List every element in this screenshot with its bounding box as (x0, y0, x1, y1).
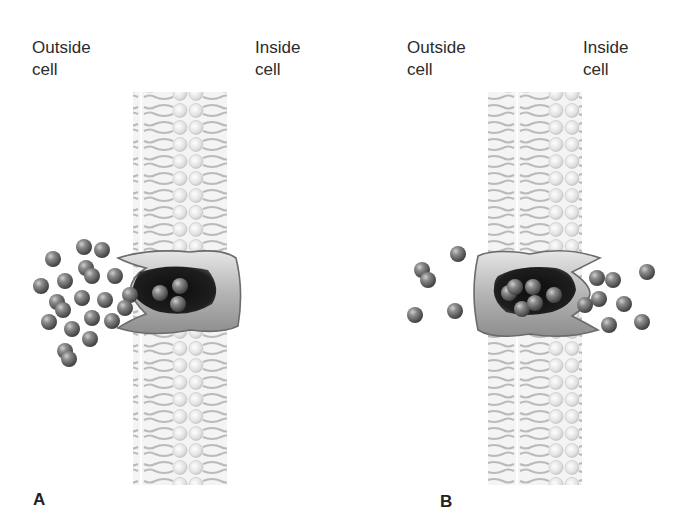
panel-b-outside-label-line1: Outside (407, 37, 466, 59)
panel-a-outside-label: Outside cell (32, 37, 91, 81)
diagram-canvas (0, 0, 680, 532)
panel-a-inside-label: Inside cell (255, 37, 300, 81)
panel-b-inside-molecules (577, 264, 655, 333)
panel-b-outside-label: Outside cell (407, 37, 466, 81)
panel-a-outside-label-line2: cell (32, 59, 91, 81)
panel-b-letter: B (440, 492, 452, 512)
panel-a-inside-label-line1: Inside (255, 37, 300, 59)
panel-b-outside-molecules (407, 246, 466, 323)
panel-b-outside-label-line2: cell (407, 59, 466, 81)
panel-a-inside-label-line2: cell (255, 59, 300, 81)
panel-b-carrier-protein (474, 251, 600, 336)
panel-b-inside-label-line1: Inside (583, 37, 628, 59)
panel-a-letter: A (33, 490, 45, 510)
panel-b-inside-label-line2: cell (583, 59, 628, 81)
panel-a-outside-label-line1: Outside (32, 37, 91, 59)
panel-b-inside-label: Inside cell (583, 37, 628, 81)
